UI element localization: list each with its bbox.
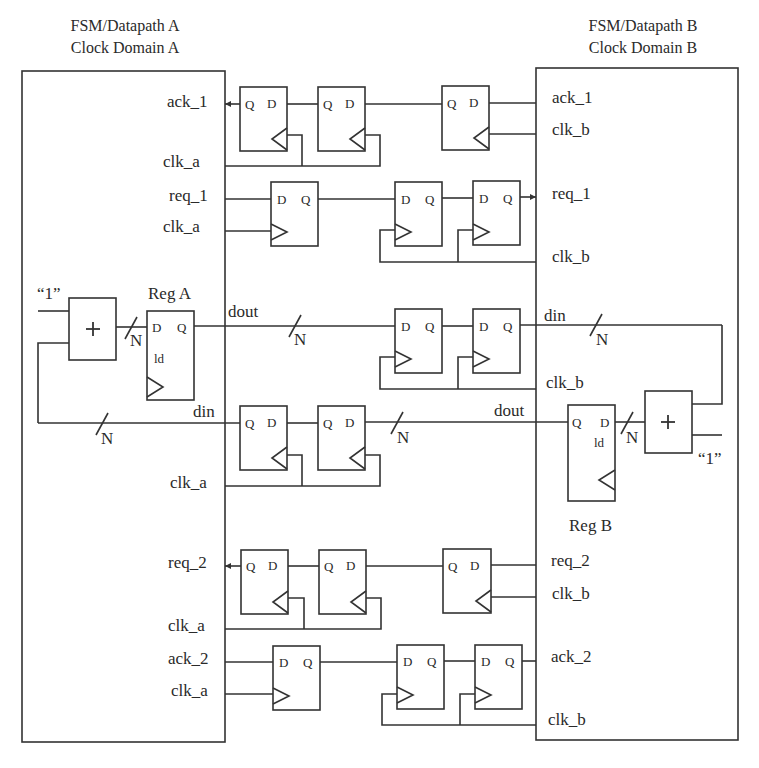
port-b-ack1: ack_1 xyxy=(552,89,593,106)
port-b-req2: req_2 xyxy=(551,552,590,569)
synchronizer-diagram xyxy=(0,0,759,768)
ff-pin-q: Q xyxy=(324,560,333,573)
domain-a-title-line2: Clock Domain A xyxy=(55,37,195,59)
bus-width-din: N xyxy=(397,429,409,446)
port-b-req1: req_1 xyxy=(552,185,591,202)
ff-pin-d: D xyxy=(346,559,355,572)
ff-pin-d: D xyxy=(277,193,286,206)
ff-pin-q: Q xyxy=(505,655,514,668)
bus-width-dout: N xyxy=(294,331,306,348)
ff-pin-q: Q xyxy=(245,417,254,430)
port-b-ack2: ack_2 xyxy=(551,648,592,665)
port-b-clk-b-1: clk_b xyxy=(552,121,590,138)
port-b-dout: dout xyxy=(494,402,524,419)
ff-pin-q: Q xyxy=(425,193,434,206)
port-a-dout: dout xyxy=(228,303,258,320)
port-a-din: din xyxy=(193,403,215,420)
adder-a-constant: “1” xyxy=(37,285,61,302)
port-b-clk-b-5: clk_b xyxy=(548,711,586,728)
bus-width-reg-b: N xyxy=(626,429,638,446)
ff-pin-q: Q xyxy=(303,656,312,669)
ff-pin-d: D xyxy=(469,96,478,109)
reg-a-d: D xyxy=(152,321,161,334)
port-b-din: din xyxy=(544,307,566,324)
ff-pin-q: Q xyxy=(447,97,456,110)
reg-b-ld: ld xyxy=(594,436,604,449)
adder-b-constant: “1” xyxy=(698,450,722,467)
domain-a-title-line1: FSM/Datapath A xyxy=(55,15,195,37)
reg-b-name: Reg B xyxy=(569,517,612,534)
port-a-clk-a-1: clk_a xyxy=(163,153,200,170)
ff-pin-d: D xyxy=(267,416,276,429)
port-b-clk-b-3: clk_b xyxy=(546,374,584,391)
ff-pin-d: D xyxy=(401,320,410,333)
ff-pin-q: Q xyxy=(448,560,457,573)
port-a-clk-a-4: clk_a xyxy=(168,617,205,634)
port-a-clk-a-3: clk_a xyxy=(170,474,207,491)
ff-pin-d: D xyxy=(268,559,277,572)
reg-b-q: Q xyxy=(572,416,581,429)
bus-width-din-b: N xyxy=(596,331,608,348)
ff-pin-d: D xyxy=(403,655,412,668)
ff-pin-d: D xyxy=(479,320,488,333)
port-a-req2: req_2 xyxy=(168,554,207,571)
reg-a-ld: ld xyxy=(154,352,164,365)
ff-pin-d: D xyxy=(401,193,410,206)
ff-pin-q: Q xyxy=(503,320,512,333)
reg-b-d: D xyxy=(600,416,609,429)
port-b-clk-b-4: clk_b xyxy=(552,585,590,602)
reg-a-q: Q xyxy=(177,321,186,334)
bus-width-reg-a: N xyxy=(130,332,142,349)
ff-pin-d: D xyxy=(345,97,354,110)
ff-pin-d: D xyxy=(345,416,354,429)
port-a-clk-a-5: clk_a xyxy=(171,682,208,699)
port-b-clk-b-2: clk_b xyxy=(552,248,590,265)
ff-pin-d: D xyxy=(481,655,490,668)
domain-b-title-line2: Clock Domain B xyxy=(573,37,713,59)
ff-pin-d: D xyxy=(479,192,488,205)
ff-pin-q: Q xyxy=(246,560,255,573)
port-a-clk-a-2: clk_a xyxy=(163,218,200,235)
ff-pin-q: Q xyxy=(503,192,512,205)
ff-pin-q: Q xyxy=(425,320,434,333)
port-a-ack2: ack_2 xyxy=(168,650,209,667)
ff-pin-q: Q xyxy=(245,98,254,111)
reg-a-name: Reg A xyxy=(148,285,191,302)
ff-pin-q: Q xyxy=(301,193,310,206)
ff-pin-q: Q xyxy=(427,655,436,668)
domain-a-title: FSM/Datapath A Clock Domain A xyxy=(55,15,195,59)
domain-b-title-line1: FSM/Datapath B xyxy=(573,15,713,37)
ff-pin-d: D xyxy=(470,559,479,572)
ff-pin-q: Q xyxy=(323,98,332,111)
domain-b-title: FSM/Datapath B Clock Domain B xyxy=(573,15,713,59)
port-a-req1: req_1 xyxy=(169,187,208,204)
ff-pin-q: Q xyxy=(323,417,332,430)
ff-pin-d: D xyxy=(279,656,288,669)
ff-pin-d: D xyxy=(267,97,276,110)
bus-width-feedback-a: N xyxy=(101,430,113,447)
port-a-ack1: ack_1 xyxy=(167,93,208,110)
